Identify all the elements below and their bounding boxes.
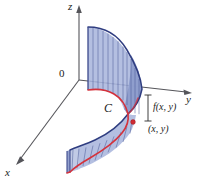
figure-canvas	[0, 0, 199, 189]
x-arrow-icon	[16, 156, 24, 165]
function-height-label: f(x, y)	[153, 102, 176, 112]
point-dot-icon	[131, 120, 136, 125]
x-axis	[21, 80, 79, 158]
y-axis-label: y	[186, 94, 191, 105]
line-integral-figure: z y x 0 C f(x, y) (x, y)	[0, 0, 199, 189]
z-axis-label: z	[68, 1, 72, 12]
z-arrow-icon	[76, 5, 82, 13]
curve-c-label: C	[104, 102, 112, 114]
curve-c-lower-edge	[67, 172, 70, 173]
origin-label: 0	[59, 68, 65, 79]
height-bracket-icon	[145, 95, 152, 121]
point-label: (x, y)	[148, 124, 169, 134]
curtain-surface	[67, 27, 142, 173]
x-axis-label: x	[5, 167, 10, 178]
